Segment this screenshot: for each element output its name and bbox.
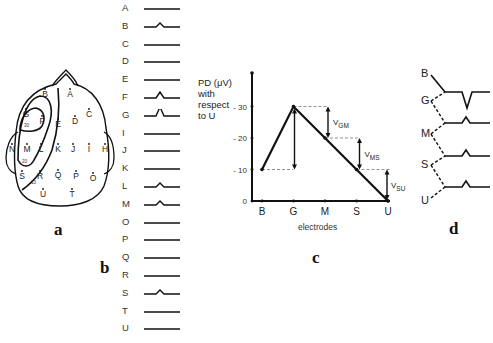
trace-row-e: E bbox=[122, 73, 192, 91]
v-su-arrow bbox=[385, 170, 390, 201]
trace-label: A bbox=[122, 2, 128, 14]
trace-label: U bbox=[122, 322, 129, 334]
y-tick-label: - 10 bbox=[233, 166, 247, 175]
data-point bbox=[323, 136, 327, 140]
panel-label-b: b bbox=[100, 258, 109, 278]
y-tick-label: - 20 bbox=[233, 134, 247, 143]
dipole-electrode-label: M bbox=[421, 127, 430, 139]
lead-m-up bbox=[431, 123, 445, 134]
trace-row-l: L bbox=[122, 180, 192, 198]
data-point bbox=[355, 168, 359, 172]
dipole-electrode-label: U bbox=[421, 194, 429, 206]
x-tick-label: U bbox=[384, 206, 391, 217]
trace-waveform bbox=[142, 144, 182, 158]
trace-label: F bbox=[122, 91, 128, 103]
differential-trace-gm bbox=[445, 117, 490, 123]
trace-waveform bbox=[142, 198, 182, 212]
trace-label: G bbox=[122, 109, 129, 121]
trace-row-u: U bbox=[122, 322, 192, 340]
x-tick bbox=[324, 200, 327, 203]
y-tick bbox=[251, 200, 254, 203]
bg-potential-arrow bbox=[292, 109, 297, 170]
trace-row-f: F bbox=[122, 91, 192, 109]
trace-label: J bbox=[122, 144, 127, 156]
y-tick bbox=[251, 137, 254, 140]
y-tick bbox=[251, 105, 254, 108]
trace-label: C bbox=[122, 38, 129, 50]
trace-row-t: T bbox=[122, 305, 192, 323]
trace-waveform bbox=[142, 322, 182, 336]
trace-row-r: R bbox=[122, 269, 192, 287]
trace-waveform bbox=[142, 55, 182, 69]
trace-row-a: A bbox=[122, 2, 192, 20]
data-point bbox=[292, 105, 296, 109]
x-axis-label: electrodes bbox=[298, 222, 337, 232]
trace-row-p: P bbox=[122, 233, 192, 251]
trace-waveform bbox=[142, 287, 182, 301]
x-tick-label: G bbox=[290, 206, 298, 217]
annotation-v-ms: VMS bbox=[365, 150, 381, 161]
panel-label-d: d bbox=[449, 219, 458, 239]
trace-label: L bbox=[122, 180, 127, 192]
trace-label: Q bbox=[122, 251, 129, 263]
differential-trace-ms bbox=[445, 150, 490, 156]
differential-trace-bg bbox=[445, 92, 490, 108]
trace-label: O bbox=[122, 216, 129, 228]
dipole-diagram: BGMSU bbox=[420, 60, 493, 220]
trace-row-j: J bbox=[122, 144, 192, 162]
lead-s-down bbox=[431, 165, 445, 187]
dipole-electrode-label: G bbox=[421, 94, 430, 106]
dipole-electrode-label: S bbox=[421, 158, 428, 170]
trace-row-m: M bbox=[122, 198, 192, 216]
y-tick bbox=[251, 168, 254, 171]
trace-waveform bbox=[142, 20, 182, 34]
y-tick-label: 0 bbox=[243, 197, 248, 206]
potential-chart: 0- 10- 20- 30BGMSUVGMVMSVSU bbox=[225, 60, 425, 230]
lead-m-down bbox=[431, 134, 445, 156]
trace-waveform bbox=[142, 2, 182, 16]
x-tick bbox=[261, 200, 264, 203]
trace-row-c: C bbox=[122, 38, 192, 56]
trace-waveform bbox=[142, 251, 182, 265]
x-tick-label: M bbox=[321, 206, 329, 217]
lead-b bbox=[431, 75, 445, 92]
trace-waveform bbox=[142, 180, 182, 194]
trace-label: P bbox=[122, 233, 128, 245]
data-point bbox=[260, 168, 264, 172]
trace-row-s: S bbox=[122, 287, 192, 305]
trace-waveform bbox=[142, 73, 182, 87]
annotation-v-su: VSU bbox=[391, 181, 406, 192]
lead-u bbox=[431, 187, 445, 198]
trace-label: R bbox=[122, 269, 129, 281]
trace-row-d: D bbox=[122, 55, 192, 73]
trace-label: K bbox=[122, 162, 128, 174]
trace-row-g: G bbox=[122, 109, 192, 127]
trace-row-q: Q bbox=[122, 251, 192, 269]
trace-waveform bbox=[142, 91, 182, 105]
differential-trace-su bbox=[445, 181, 490, 187]
trace-waveform bbox=[142, 109, 182, 123]
trace-label: B bbox=[122, 20, 128, 32]
trace-label: T bbox=[122, 305, 128, 317]
lead-s-up bbox=[431, 156, 445, 165]
lead-g-up bbox=[431, 92, 445, 101]
trace-label: S bbox=[122, 287, 128, 299]
trace-row-o: O bbox=[122, 216, 192, 234]
trace-label: I bbox=[122, 127, 125, 139]
trace-waveform bbox=[142, 38, 182, 52]
v-gm-arrow bbox=[326, 107, 331, 139]
trace-waveform bbox=[142, 233, 182, 247]
x-tick-label: S bbox=[353, 206, 360, 217]
trace-waveform bbox=[142, 162, 182, 176]
dipole-electrode-label: B bbox=[421, 67, 428, 79]
x-tick bbox=[355, 200, 358, 203]
trace-label: M bbox=[122, 198, 130, 210]
trace-waveform bbox=[142, 127, 182, 141]
trace-row-i: I bbox=[122, 127, 192, 145]
data-point bbox=[386, 199, 390, 203]
y-tick-label: - 30 bbox=[233, 103, 247, 112]
annotation-v-gm: VGM bbox=[333, 118, 349, 129]
trace-list: ABCDEFGIJKLMOPQRSTU bbox=[0, 0, 200, 343]
trace-row-k: K bbox=[122, 162, 192, 180]
trace-waveform bbox=[142, 269, 182, 283]
